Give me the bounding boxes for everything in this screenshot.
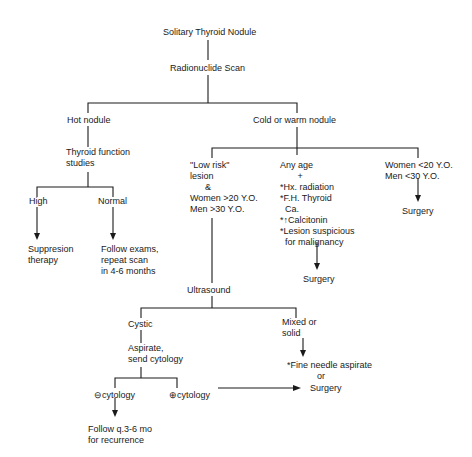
node-suppression-therapy: Suppresion therapy: [28, 244, 74, 266]
node-low-risk-lesion: "Low risk" lesion & Women >20 Y.O. Men >…: [190, 160, 258, 215]
node-surgery-bottom: Surgery: [310, 383, 342, 394]
node-high: High: [29, 196, 48, 207]
node-follow-recurrence: Follow q.3-6 mo for recurrence: [88, 424, 152, 446]
node-any-age-criteria: Any age + *Hx. radiation *F.H. Thyroid C…: [280, 160, 355, 248]
node-solitary-thyroid-nodule: Solitary Thyroid Nodule: [163, 27, 256, 38]
node-hot-nodule: Hot nodule: [67, 115, 111, 126]
node-negative-cytology: ⊖cytology: [94, 390, 135, 401]
thyroid-nodule-flowchart: Solitary Thyroid Nodule Radionuclide Sca…: [0, 0, 472, 457]
node-aspirate-send-cytology: Aspirate, send cytology: [128, 343, 183, 365]
node-normal: Normal: [98, 196, 127, 207]
node-cystic: Cystic: [128, 319, 153, 330]
node-young-patients: Women <20 Y.O. Men <30 Y.O.: [385, 160, 453, 182]
node-follow-exams: Follow exams, repeat scan in 4-6 months: [101, 244, 159, 277]
node-radionuclide-scan: Radionuclide Scan: [170, 63, 245, 74]
node-thyroid-function-studies: Thyroid function studies: [66, 147, 130, 169]
node-positive-cytology: ⊕cytology: [169, 390, 210, 401]
node-fine-needle-aspirate: *Fine needle aspirate or: [287, 360, 372, 382]
node-ultrasound: Ultrasound: [187, 285, 231, 296]
node-mixed-or-solid: Mixed or solid: [282, 317, 317, 339]
node-surgery-mid: Surgery: [303, 274, 335, 285]
node-cold-or-warm-nodule: Cold or warm nodule: [253, 115, 336, 126]
node-surgery-right: Surgery: [402, 206, 434, 217]
